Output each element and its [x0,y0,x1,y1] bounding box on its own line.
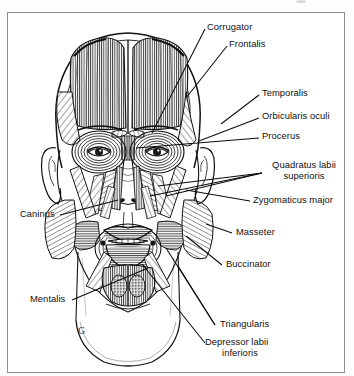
label-masseter: Masseter [236,227,275,238]
engraver-mark-g: G [78,325,85,336]
svg-text:G: G [78,325,85,336]
label-orbicularis-oculi: Orbicularis oculi [262,111,330,122]
label-quadratus-line1: Quadratus labii [272,159,336,170]
figure-page: G Corrugator Frontalis Temporalis Orbicu… [0,0,354,376]
label-quadratus-line2: superioris [283,170,324,181]
label-quadratus-labii-superioris: Quadratus labii superioris [258,160,350,181]
label-depressor-line1: Depressor labii [205,336,268,347]
right-eye [145,147,169,156]
label-temporalis: Temporalis [262,88,308,99]
label-zygomaticus-major: Zygomaticus major [253,195,333,206]
label-depressor-line2: inferioris [205,348,258,359]
label-caninus: Caninus [20,209,55,220]
left-eye [87,147,111,156]
facial-muscles-illustration: G [0,0,354,376]
mentalis-muscle [98,260,160,312]
frontalis-muscle [60,30,198,140]
label-procerus: Procerus [262,131,300,142]
label-frontalis: Frontalis [229,39,265,50]
label-buccinator: Buccinator [226,259,271,270]
label-corrugator: Corrugator [207,22,252,33]
label-depressor-labii-inferioris: Depressor labii inferioris [205,337,301,358]
procerus-muscle [121,136,135,160]
label-mentalis: Mentalis [30,294,65,305]
label-triangularis: Triangularis [220,319,269,330]
